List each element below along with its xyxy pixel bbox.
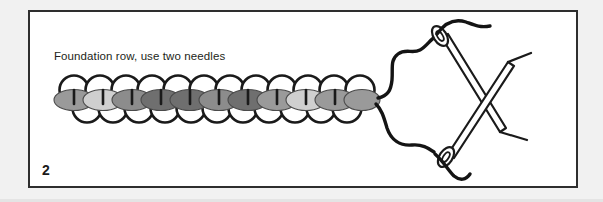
figure-caption: Foundation row, use two needles	[54, 50, 225, 62]
needle-upper	[429, 23, 506, 132]
figure-frame: Foundation row, use two needles 2	[28, 10, 578, 188]
bead-chain	[54, 76, 380, 123]
figure-number: 2	[42, 162, 50, 178]
bottom-rule	[0, 199, 603, 202]
needle-lower-point	[508, 53, 531, 62]
bead	[344, 90, 380, 111]
thread-upper	[378, 36, 436, 98]
thread-lower	[376, 104, 434, 152]
threads	[376, 36, 436, 152]
needle-lower-shaft	[448, 62, 514, 158]
page-background: Foundation row, use two needles 2	[0, 0, 603, 202]
beading-diagram	[30, 12, 576, 186]
needle-upper-point	[500, 132, 527, 140]
